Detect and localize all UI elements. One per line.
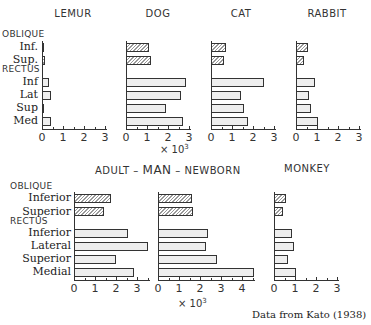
axis-multiplier-top: × 103 bbox=[160, 143, 189, 155]
bar-cat-rectus bbox=[211, 78, 264, 87]
major-tick bbox=[317, 126, 318, 130]
minor-tick bbox=[306, 278, 307, 281]
major-tick bbox=[295, 277, 296, 281]
bar-dog-rectus bbox=[126, 78, 186, 87]
bar-lemur-rectus bbox=[42, 117, 51, 126]
bar-newborn-man-oblique bbox=[158, 194, 192, 203]
x-axis bbox=[158, 280, 255, 281]
minor-tick bbox=[53, 127, 54, 130]
major-tick bbox=[95, 277, 96, 281]
tick-label: 1 bbox=[176, 282, 183, 295]
tick-label: 2 bbox=[197, 282, 204, 295]
tick-label: 1 bbox=[314, 131, 321, 144]
tick-label: 3 bbox=[218, 282, 225, 295]
row-label: Superior bbox=[22, 252, 71, 265]
major-tick bbox=[147, 126, 148, 130]
bar-lemur-rectus bbox=[42, 78, 49, 87]
major-tick bbox=[253, 126, 254, 130]
bar-monkey-rectus bbox=[274, 268, 296, 277]
tick-label: 3 bbox=[334, 282, 341, 295]
title-man: MAN bbox=[143, 163, 172, 177]
tick-label: 1 bbox=[229, 131, 236, 144]
tick-label: 0 bbox=[39, 131, 46, 144]
panel-title-rabbit: RABBIT bbox=[307, 8, 346, 19]
major-tick bbox=[337, 277, 338, 281]
data-credit: Data from Kato (1938) bbox=[252, 309, 366, 320]
major-tick bbox=[105, 126, 106, 130]
bar-rabbit-rectus bbox=[296, 104, 311, 113]
bar-rabbit-oblique bbox=[296, 43, 308, 52]
tick-label: 0 bbox=[208, 131, 215, 144]
bar-newborn-man-rectus bbox=[158, 268, 254, 277]
tick-label: 2 bbox=[250, 131, 257, 144]
tick-label: 0 bbox=[71, 282, 78, 295]
group-label-oblique: OBLIQUE bbox=[10, 181, 52, 191]
group-label-rectus: RECTUS bbox=[2, 64, 40, 74]
tick-label: 0 bbox=[271, 282, 278, 295]
major-tick bbox=[189, 126, 190, 130]
minor-tick bbox=[211, 278, 212, 281]
bar-lemur-rectus bbox=[42, 104, 44, 113]
major-tick bbox=[74, 277, 75, 281]
bar-rabbit-rectus bbox=[296, 78, 315, 87]
tick-label: 1 bbox=[60, 131, 67, 144]
bar-cat-oblique bbox=[211, 56, 224, 65]
tick-label: 0 bbox=[155, 282, 162, 295]
title-dash: – bbox=[175, 165, 181, 176]
minor-tick bbox=[74, 127, 75, 130]
tick-label: 1 bbox=[92, 282, 99, 295]
multiplier-exp: 3 bbox=[184, 143, 188, 151]
bar-adult-man-rectus bbox=[74, 229, 128, 238]
row-label: Medial bbox=[33, 265, 71, 278]
row-label: Lat bbox=[20, 88, 38, 101]
bar-adult-man-rectus bbox=[74, 255, 116, 264]
tick-label: 2 bbox=[113, 282, 120, 295]
tick-label: 0 bbox=[123, 131, 130, 144]
minor-tick bbox=[243, 127, 244, 130]
row-label: Med bbox=[13, 114, 38, 127]
panel-title-dog: DOG bbox=[146, 8, 171, 19]
bar-dog-oblique bbox=[126, 43, 149, 52]
multiplier-text: × 10 bbox=[160, 144, 184, 155]
minor-tick bbox=[264, 127, 265, 130]
major-tick bbox=[338, 126, 339, 130]
minor-tick bbox=[127, 278, 128, 281]
major-tick bbox=[232, 126, 233, 130]
bar-newborn-man-rectus bbox=[158, 229, 208, 238]
major-tick bbox=[221, 277, 222, 281]
row-label: Inf bbox=[22, 75, 38, 88]
title-dash: – bbox=[133, 165, 139, 176]
bar-monkey-oblique bbox=[274, 194, 286, 203]
bar-cat-rectus bbox=[211, 104, 244, 113]
minor-tick bbox=[106, 278, 107, 281]
bar-adult-man-oblique bbox=[74, 194, 111, 203]
major-tick bbox=[63, 126, 64, 130]
minor-tick bbox=[190, 278, 191, 281]
major-tick bbox=[274, 277, 275, 281]
major-tick bbox=[179, 277, 180, 281]
bar-monkey-rectus bbox=[274, 229, 292, 238]
minor-tick bbox=[285, 278, 286, 281]
panel-title-monkey: MONKEY bbox=[284, 163, 330, 174]
title-adult: ADULT bbox=[95, 165, 130, 176]
bar-adult-man-oblique bbox=[74, 207, 104, 216]
bar-monkey-oblique bbox=[274, 207, 283, 216]
bar-rabbit-rectus bbox=[296, 91, 309, 100]
major-tick bbox=[296, 126, 297, 130]
panel-title-man: ADULT – MAN – NEWBORN bbox=[95, 163, 241, 177]
minor-tick bbox=[328, 127, 329, 130]
bar-dog-rectus bbox=[126, 104, 166, 113]
bar-lemur-oblique bbox=[42, 43, 44, 52]
tick-label: 2 bbox=[335, 131, 342, 144]
panel-title-cat: CAT bbox=[231, 8, 252, 19]
bar-dog-oblique bbox=[126, 56, 151, 65]
bar-rabbit-rectus bbox=[296, 117, 318, 126]
minor-tick bbox=[253, 278, 254, 281]
major-tick bbox=[126, 126, 127, 130]
row-label: Sup bbox=[16, 101, 38, 114]
tick-label: 4 bbox=[239, 282, 246, 295]
row-label: Inf. bbox=[19, 40, 38, 53]
bar-monkey-rectus bbox=[274, 242, 294, 251]
minor-tick bbox=[85, 278, 86, 281]
major-tick bbox=[316, 277, 317, 281]
